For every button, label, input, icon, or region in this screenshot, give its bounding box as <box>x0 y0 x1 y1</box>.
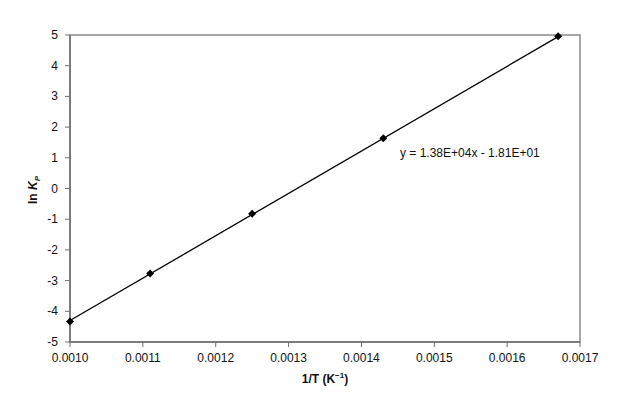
y-tick-label: 3 <box>51 89 58 103</box>
trendline-equation: y = 1.38E+04x - 1.81E+01 <box>400 146 540 160</box>
x-tick-label: 0.0015 <box>416 351 453 365</box>
y-tick-label: 4 <box>51 59 58 73</box>
y-tick-label: 1 <box>51 151 58 165</box>
y-axis-title: ln KP <box>26 175 42 204</box>
y-tick-label: -2 <box>47 243 58 257</box>
x-tick-label: 0.0011 <box>125 351 161 365</box>
y-tick-label: 5 <box>51 28 58 42</box>
x-tick-label: 0.0012 <box>197 351 234 365</box>
y-tick-label: -4 <box>47 304 58 318</box>
y-tick-label: -3 <box>47 274 58 288</box>
plot-area <box>70 35 580 342</box>
x-axis: 0.00100.00110.00120.00130.00140.00150.00… <box>52 342 599 365</box>
x-tick-label: 0.0010 <box>52 351 89 365</box>
x-axis-title: 1/T (K−1) <box>302 371 348 386</box>
x-tick-label: 0.0016 <box>489 351 526 365</box>
y-tick-label: -5 <box>47 335 58 349</box>
x-tick-label: 0.0013 <box>270 351 307 365</box>
y-axis: -5-4-3-2-1012345 <box>47 28 70 349</box>
chart-canvas: -5-4-3-2-1012345 0.00100.00110.00120.001… <box>0 0 621 412</box>
plot-border <box>70 35 580 342</box>
x-tick-label: 0.0017 <box>562 351 599 365</box>
y-tick-label: 2 <box>51 120 58 134</box>
x-tick-label: 0.0014 <box>343 351 380 365</box>
y-tick-label: -1 <box>47 212 58 226</box>
y-tick-label: 0 <box>51 182 58 196</box>
